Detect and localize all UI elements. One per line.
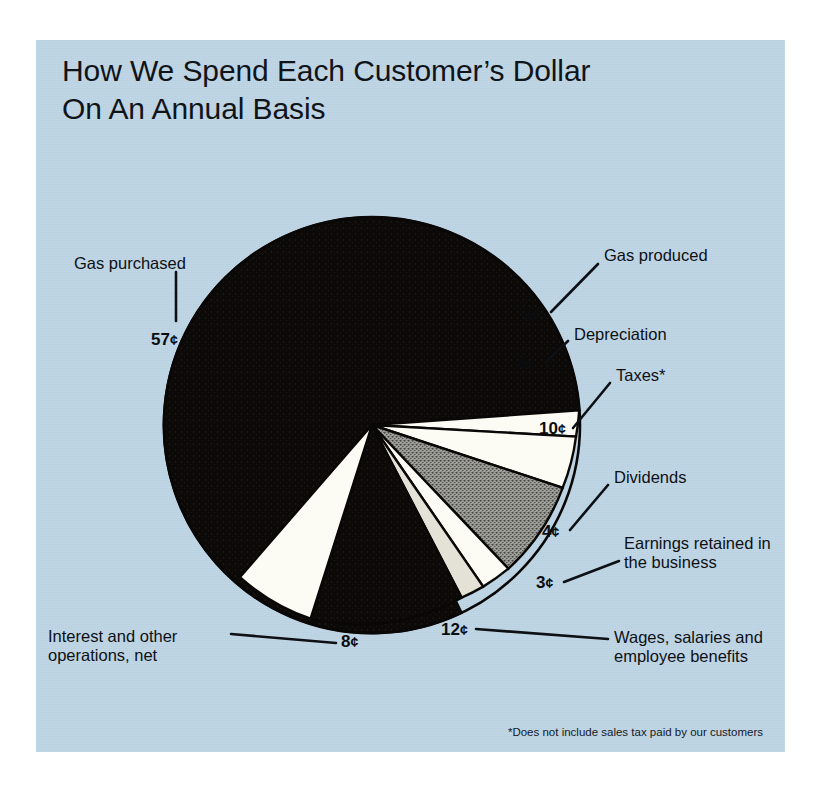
cent-sign: ¢ (545, 575, 553, 591)
slice-value-number: 12 (441, 620, 460, 639)
slice-label-depreciation: Depreciation (574, 325, 667, 344)
slice-label-gas-purchased: Gas purchased (74, 254, 186, 273)
cent-sign: ¢ (558, 421, 566, 437)
cent-sign: ¢ (532, 307, 540, 323)
slice-value-wages: 12¢ (441, 620, 468, 640)
cent-sign: ¢ (551, 524, 559, 540)
slice-label-taxes: Taxes* (616, 366, 666, 385)
chart-panel: How We Spend Each Customer’s Dollar On A… (36, 40, 785, 752)
slice-value-depreciation: 4¢ (517, 355, 534, 375)
chart-footnote: *Does not include sales tax paid by our … (508, 726, 763, 738)
slice-label-wages: Wages, salaries and employee benefits (614, 628, 763, 667)
cent-sign: ¢ (460, 622, 468, 638)
slice-value-gas-produced: 2¢ (523, 305, 540, 325)
slice-label-interest: Interest and other operations, net (48, 627, 177, 666)
cent-sign: ¢ (350, 634, 358, 650)
slice-value-gas-purchased: 57¢ (151, 330, 178, 350)
slice-value-dividends: 4¢ (542, 522, 559, 542)
chart-title: How We Spend Each Customer’s Dollar On A… (62, 52, 722, 129)
cent-sign: ¢ (526, 357, 534, 373)
slice-value-number: 10 (539, 419, 558, 438)
slice-label-dividends: Dividends (614, 468, 686, 487)
slice-value-earnings-retained: 3¢ (536, 573, 553, 593)
slice-label-gas-produced: Gas produced (604, 246, 708, 265)
cent-sign: ¢ (170, 332, 178, 348)
slice-value-number: 57 (151, 330, 170, 349)
slice-label-earnings-retained: Earnings retained in the business (624, 534, 771, 573)
slice-value-interest: 8¢ (341, 632, 358, 652)
slice-value-taxes: 10¢ (539, 419, 566, 439)
